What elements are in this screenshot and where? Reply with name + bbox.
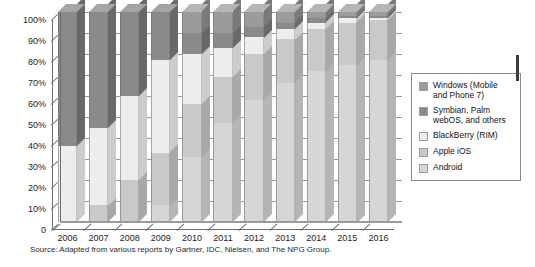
bar-2009 — [151, 12, 170, 222]
figure-stacked-bar-chart: 100%90%80%70%60%50%40%30%20%10%0 2006200… — [0, 0, 535, 267]
x-tick-label-2011: 2011 — [207, 234, 238, 243]
chart-legend: Windows (Mobile and Phone 7)Symbian, Pal… — [411, 73, 521, 181]
segment-face — [89, 12, 108, 128]
segment-side — [139, 0, 147, 96]
segment-face — [120, 12, 139, 96]
y-tick-label: 90% — [2, 37, 46, 46]
segment-face — [338, 16, 357, 18]
legend-label: Android — [433, 162, 462, 172]
segment-face — [338, 23, 357, 65]
segment-2010-android — [182, 157, 201, 222]
segment-2009-blackberry-rim — [151, 60, 170, 152]
segment-face — [369, 18, 388, 20]
y-tick-label: 20% — [2, 184, 46, 193]
segment-face — [182, 12, 201, 33]
x-tick-label-2012: 2012 — [239, 234, 270, 243]
segment-face — [369, 60, 388, 222]
segment-side — [295, 67, 303, 222]
segment-face — [307, 12, 326, 18]
x-tick-label-2014: 2014 — [301, 234, 332, 243]
y-axis-back — [60, 12, 61, 222]
legend-item: Windows (Mobile and Phone 7) — [419, 80, 513, 100]
segment-2015-apple-ios — [338, 23, 357, 65]
segment-2013-blackberry-rim — [276, 29, 295, 40]
segment-face — [276, 29, 295, 40]
segment-2010-blackberry-rim — [182, 54, 201, 104]
x-tick-label-2008: 2008 — [114, 234, 145, 243]
segment-2016-apple-ios — [369, 20, 388, 60]
segment-2014-android — [307, 71, 326, 222]
legend-label: BlackBerry (RIM) — [433, 130, 498, 140]
y-tick-label: 60% — [2, 100, 46, 109]
legend-item: Android — [419, 162, 513, 173]
y-tick-label: 50% — [2, 121, 46, 130]
y-tick-label: 100% — [2, 16, 46, 25]
segment-2007-apple-ios — [89, 205, 108, 222]
segment-face — [244, 27, 263, 38]
segment-side — [233, 107, 241, 222]
segment-2015-android — [338, 65, 357, 223]
segment-2007-blackberry-rim — [89, 128, 108, 206]
segment-2016-android — [369, 60, 388, 222]
y-tick-label: 30% — [2, 163, 46, 172]
gridline — [60, 222, 402, 223]
segment-face — [369, 20, 388, 60]
segment-2016-blackberry-rim — [369, 18, 388, 20]
bar-2016 — [369, 12, 388, 222]
segment-2013-symbian-palm-webos-and-others — [276, 23, 295, 29]
segment-face — [182, 33, 201, 54]
segment-side — [326, 55, 334, 222]
page-edge-mark — [516, 55, 519, 81]
segment-face — [151, 60, 170, 152]
segment-face — [89, 128, 108, 206]
y-tick-label: 70% — [2, 79, 46, 88]
segment-side — [264, 84, 272, 222]
segment-2008-blackberry-rim — [120, 96, 139, 180]
segment-2012-blackberry-rim — [244, 37, 263, 54]
plot-area — [52, 12, 402, 230]
bar-2013 — [276, 12, 295, 222]
legend-swatch-icon — [419, 132, 428, 141]
bar-2011 — [213, 12, 232, 222]
segment-side — [139, 80, 147, 180]
segment-face — [307, 18, 326, 22]
segment-2016-symbian-palm-webos-and-others — [369, 16, 388, 18]
legend-swatch-icon — [419, 164, 428, 173]
segment-side — [357, 49, 365, 223]
legend-item: BlackBerry (RIM) — [419, 130, 513, 141]
segment-face — [182, 157, 201, 222]
segment-face — [276, 23, 295, 29]
x-axis-back — [60, 221, 402, 222]
x-tick-label-2006: 2006 — [52, 234, 83, 243]
segment-2015-windows-mobile-and-phone-7 — [338, 12, 357, 16]
segment-face — [120, 96, 139, 180]
segment-face — [369, 16, 388, 18]
segment-2011-symbian-palm-webos-and-others — [213, 33, 232, 48]
segment-face — [151, 205, 170, 222]
source-caption: Source: Adapted from various reports by … — [30, 245, 331, 255]
segment-2016-windows-mobile-and-phone-7 — [369, 12, 388, 16]
segment-2013-apple-ios — [276, 39, 295, 83]
x-axis-front — [52, 229, 394, 230]
legend-swatch-icon — [419, 148, 428, 157]
segment-side — [108, 0, 116, 128]
legend-label: Symbian, Palm webOS, and others — [433, 105, 513, 125]
segment-2015-symbian-palm-webos-and-others — [338, 16, 357, 18]
x-tick-label-2015: 2015 — [332, 234, 363, 243]
legend-item: Symbian, Palm webOS, and others — [419, 105, 513, 125]
segment-2010-apple-ios — [182, 104, 201, 157]
legend-swatch-icon — [419, 82, 428, 91]
legend-item: Apple iOS — [419, 146, 513, 157]
segment-2013-windows-mobile-and-phone-7 — [276, 12, 295, 23]
segment-2009-apple-ios — [151, 153, 170, 206]
x-tick-label-2013: 2013 — [270, 234, 301, 243]
bar-2014 — [307, 12, 326, 222]
segment-2010-symbian-palm-webos-and-others — [182, 33, 201, 54]
segment-face — [307, 29, 326, 71]
segment-2009-symbian-palm-webos-and-others — [151, 12, 170, 60]
segment-2011-android — [213, 123, 232, 222]
segment-2008-symbian-palm-webos-and-others — [120, 12, 139, 96]
bar-2010 — [182, 12, 201, 222]
segment-face — [213, 33, 232, 48]
segment-face — [244, 12, 263, 27]
